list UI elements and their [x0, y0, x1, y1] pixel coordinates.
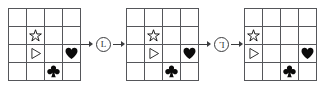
grid-cell	[245, 9, 263, 27]
triangle-right-outline-icon	[30, 47, 42, 60]
star-outline-icon	[247, 29, 260, 42]
heart-filled-icon	[301, 47, 314, 60]
triangle-right-outline-icon	[248, 47, 260, 60]
grid-cell	[127, 45, 145, 63]
grid-cell	[181, 9, 199, 27]
club-filled-icon	[165, 65, 178, 78]
operator-group-1: L	[81, 8, 126, 80]
arrow-right-icon	[231, 40, 244, 49]
arrow-right-icon	[113, 40, 126, 49]
grid-cell	[263, 63, 281, 81]
operator-badge-label: L	[219, 40, 225, 49]
grid-cell	[127, 9, 145, 27]
grid-cell	[45, 63, 63, 81]
grid-cell	[45, 27, 63, 45]
symbol-grid-2	[126, 8, 199, 81]
grid-cell	[145, 45, 163, 63]
transformation-sequence: LL	[0, 0, 325, 88]
operator-badge-label: L	[101, 40, 107, 49]
grid-cell	[9, 63, 27, 81]
operator-badge-1: L	[96, 37, 111, 52]
grid-cell	[45, 45, 63, 63]
arrow-right-icon	[81, 40, 94, 49]
grid-cell	[281, 63, 299, 81]
grid-cell	[263, 27, 281, 45]
triangle-right-outline-icon	[148, 47, 160, 60]
grid-cell	[163, 27, 181, 45]
grid-cell	[281, 45, 299, 63]
grid-cell	[127, 63, 145, 81]
grid-cell	[263, 45, 281, 63]
grid-cell	[9, 9, 27, 27]
grid-cell	[27, 63, 45, 81]
grid-cell	[181, 63, 199, 81]
grid-cell	[163, 45, 181, 63]
grid-cell	[181, 27, 199, 45]
grid-cell	[145, 27, 163, 45]
heart-filled-icon	[183, 47, 196, 60]
grid-cell	[9, 27, 27, 45]
grid-cell	[63, 45, 81, 63]
grid-cell	[245, 45, 263, 63]
grid-cell	[299, 45, 317, 63]
grid-cell	[27, 27, 45, 45]
grid-cell	[299, 63, 317, 81]
grid-cell	[163, 9, 181, 27]
grid-cell	[63, 9, 81, 27]
grid-cell	[263, 9, 281, 27]
operator-group-2: L	[199, 8, 244, 80]
symbol-grid-3	[244, 8, 317, 81]
operator-badge-2: L	[214, 37, 229, 52]
grid-cell	[181, 45, 199, 63]
grid-cell	[299, 27, 317, 45]
grid-cell	[281, 9, 299, 27]
grid-cell	[27, 45, 45, 63]
grid-cell	[45, 9, 63, 27]
grid-cell	[27, 9, 45, 27]
club-filled-icon	[283, 65, 296, 78]
symbol-grid-1	[8, 8, 81, 81]
grid-cell	[63, 27, 81, 45]
grid-cell	[127, 27, 145, 45]
club-filled-icon	[47, 65, 60, 78]
arrow-right-icon	[199, 40, 212, 49]
grid-cell	[9, 45, 27, 63]
grid-cell	[245, 63, 263, 81]
grid-cell	[63, 63, 81, 81]
grid-cell	[145, 9, 163, 27]
grid-cell	[281, 27, 299, 45]
grid-cell	[145, 63, 163, 81]
star-outline-icon	[29, 29, 42, 42]
star-outline-icon	[147, 29, 160, 42]
heart-filled-icon	[65, 47, 78, 60]
grid-cell	[299, 9, 317, 27]
grid-cell	[245, 27, 263, 45]
grid-cell	[163, 63, 181, 81]
